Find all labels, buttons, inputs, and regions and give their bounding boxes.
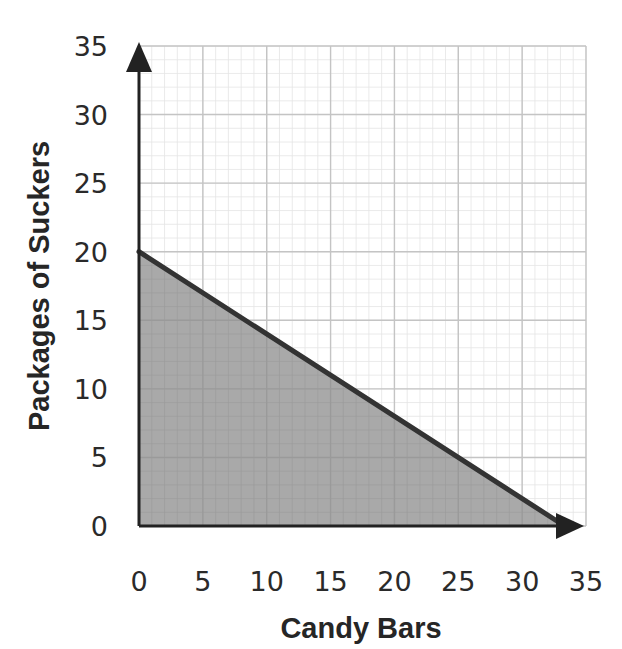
y-tick-labels: 05101520253035 — [74, 31, 108, 542]
chart: 05101520253035 05101520253035 Candy Bars… — [0, 0, 622, 649]
y-tick-label: 0 — [91, 511, 108, 542]
y-tick-label: 35 — [74, 31, 108, 62]
x-tick-label: 30 — [505, 566, 539, 597]
y-tick-label: 10 — [74, 374, 108, 405]
x-tick-label: 35 — [569, 566, 603, 597]
y-tick-label: 30 — [74, 100, 108, 131]
y-axis-title: Packages of Suckers — [23, 141, 55, 431]
x-tick-labels: 05101520253035 — [130, 566, 603, 597]
x-tick-label: 10 — [250, 566, 284, 597]
y-tick-label: 5 — [91, 442, 108, 473]
y-tick-label: 15 — [74, 305, 108, 336]
x-tick-label: 5 — [194, 566, 211, 597]
x-tick-label: 0 — [130, 566, 147, 597]
x-tick-label: 15 — [313, 566, 347, 597]
x-axis-title: Candy Bars — [280, 612, 441, 644]
x-tick-label: 20 — [377, 566, 411, 597]
y-tick-label: 20 — [74, 237, 108, 268]
y-tick-label: 25 — [74, 168, 108, 199]
x-tick-label: 25 — [441, 566, 475, 597]
x-axis-arrow-icon — [556, 513, 584, 539]
